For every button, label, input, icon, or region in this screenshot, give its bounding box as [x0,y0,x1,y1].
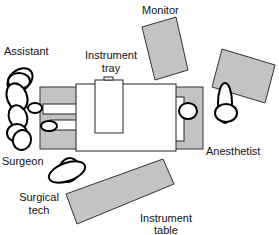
label-instrument-table-2: table [154,224,178,235]
instrument-tray [95,77,123,133]
label-monitor: Monitor [142,4,179,16]
label-surgical-tech-2: tech [29,204,50,216]
label-anesthetist: Anesthetist [206,145,260,157]
monitor [142,17,188,80]
or-layout-diagram: Monitor Assistant Instrument tray Anesth… [0,0,279,235]
surgeon-hand [41,121,57,131]
patient-head [179,103,197,119]
label-instrument-tray-2: tray [102,62,121,74]
label-surgical-tech-1: Surgical [19,191,59,203]
arm-board-left [43,104,80,114]
surgical-tech-figure [46,156,88,187]
label-assistant: Assistant [4,45,49,57]
label-instrument-table-1: Instrument [140,212,192,224]
diagram-canvas: Monitor Assistant Instrument tray Anesth… [0,0,279,235]
sterile-drape [76,84,176,151]
assistant-hand [28,103,42,113]
label-instrument-tray-1: Instrument [85,49,137,61]
label-surgeon: Surgeon [2,155,44,167]
